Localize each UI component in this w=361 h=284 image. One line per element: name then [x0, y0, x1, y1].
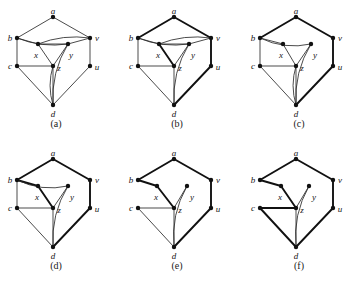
edge-y-v [189, 38, 211, 44]
vertex-label-a: a [172, 148, 177, 158]
vertex-label-z: z [177, 63, 182, 73]
vertex-label-x: x [277, 192, 282, 202]
edge-c-d [138, 208, 174, 247]
edge-b-y-curve [260, 38, 311, 46]
panel-caption-d: (d) [6, 261, 106, 271]
vertex-label-c: c [129, 203, 133, 213]
vertex-label-y: y [189, 192, 194, 202]
vertex-d [172, 103, 176, 107]
edge-a-v [296, 17, 333, 38]
figure-root: abvxyczud(a)abvxyczud(b)abvxyczud(c)abvx… [0, 0, 361, 284]
edge-a-b [17, 159, 53, 180]
graph-panel-b: abvxyczud(b) [127, 6, 227, 124]
edge-c-d [17, 66, 53, 105]
graph-panel-e: abvxyczud(e) [127, 148, 227, 266]
vertex-c [136, 64, 140, 68]
edge-b-x [17, 180, 38, 186]
vertex-x [36, 184, 40, 188]
vertex-label-v: v [95, 175, 99, 185]
vertex-z [294, 206, 298, 210]
vertex-label-a: a [172, 6, 177, 16]
edge-x-z [157, 186, 174, 208]
vertex-d [51, 103, 55, 107]
vertex-label-a: a [51, 148, 56, 158]
vertex-u [209, 64, 213, 68]
edge-x-z [38, 186, 53, 208]
vertex-label-v: v [95, 33, 99, 43]
vertex-label-z: z [177, 205, 182, 215]
vertex-label-x: x [155, 50, 160, 60]
vertex-c [15, 206, 19, 210]
vertex-label-y: y [69, 192, 74, 202]
edge-a-v [174, 17, 211, 38]
vertex-label-y: y [190, 50, 195, 60]
vertex-c [258, 206, 262, 210]
edge-b-x [260, 38, 283, 44]
vertex-u [88, 64, 92, 68]
vertex-label-x: x [33, 50, 38, 60]
edge-y-d-curve [173, 186, 187, 247]
vertex-label-u: u [338, 204, 343, 214]
vertex-label-z: z [299, 205, 304, 215]
edge-x-z [281, 186, 296, 208]
vertex-label-a: a [51, 6, 56, 16]
vertex-x [281, 42, 285, 46]
panel-caption-c: (c) [249, 119, 349, 129]
vertex-label-c: c [251, 61, 255, 71]
vertex-label-v: v [338, 33, 342, 43]
vertex-b [136, 36, 140, 40]
vertex-d [172, 245, 176, 249]
vertex-label-c: c [251, 203, 255, 213]
edge-x-z [38, 44, 53, 66]
vertex-label-u: u [216, 204, 221, 214]
vertex-y [66, 184, 70, 188]
vertex-x [155, 184, 159, 188]
vertex-label-x: x [153, 192, 158, 202]
vertex-label-v: v [338, 175, 342, 185]
vertex-y [309, 42, 313, 46]
vertex-label-z: z [56, 63, 61, 73]
vertex-y [66, 42, 70, 46]
vertex-y [185, 184, 189, 188]
vertex-d [294, 103, 298, 107]
vertex-label-c: c [8, 203, 12, 213]
edge-a-v [53, 17, 90, 38]
vertex-label-b: b [8, 175, 13, 185]
edge-b-x [260, 180, 281, 186]
vertex-label-v: v [216, 33, 220, 43]
panel-caption-b: (b) [127, 119, 227, 129]
vertex-label-b: b [8, 33, 13, 43]
vertex-label-x: x [34, 192, 39, 202]
vertex-z [172, 206, 176, 210]
vertex-label-y: y [311, 192, 316, 202]
edge-c-d [260, 208, 296, 247]
vertex-label-z: z [299, 63, 304, 73]
vertex-label-b: b [129, 33, 134, 43]
vertex-y [187, 42, 191, 46]
vertex-x [157, 42, 161, 46]
vertex-label-u: u [95, 62, 100, 72]
edge-c-d [138, 66, 174, 105]
edge-a-b [138, 17, 174, 38]
panel-caption-f: (f) [249, 261, 349, 271]
vertex-c [258, 64, 262, 68]
vertex-label-c: c [129, 61, 133, 71]
edge-x-z [159, 44, 174, 66]
vertex-u [331, 64, 335, 68]
panel-caption-a: (a) [6, 119, 106, 129]
graph-panel-c: abvxyczud(c) [249, 6, 349, 124]
vertex-v [331, 36, 335, 40]
edge-a-b [260, 17, 296, 38]
edge-y-d-curve [53, 44, 68, 105]
vertex-u [331, 206, 335, 210]
edge-a-b [17, 17, 53, 38]
vertex-b [15, 36, 19, 40]
vertex-z [294, 64, 298, 68]
vertex-label-a: a [294, 148, 299, 158]
vertex-label-u: u [338, 62, 343, 72]
edge-y-d-curve [295, 186, 309, 247]
edge-a-b [260, 159, 296, 180]
vertex-b [258, 36, 262, 40]
vertex-label-b: b [129, 175, 134, 185]
vertex-d [51, 245, 55, 249]
